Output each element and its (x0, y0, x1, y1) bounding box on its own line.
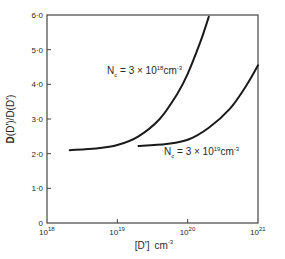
y-tick-label: 5·0 (31, 46, 43, 55)
y-tick-label: 0 (39, 219, 44, 228)
x-tick-label: 1020 (180, 226, 196, 237)
y-tick-label: 1·0 (31, 184, 43, 193)
y-tick-label: 6·0 (31, 11, 43, 20)
series-curve-0 (70, 17, 209, 151)
plot-frame (47, 15, 258, 223)
series-label-nc-3e18: Nc = 3 × 1018cm-3 (107, 65, 183, 78)
chart: 01·02·03·04·05·06·0 1018101910201021 D(D… (0, 0, 285, 259)
x-axis-ticks: 1018101910201021 (39, 219, 266, 237)
x-tick-label: 1019 (109, 226, 125, 237)
data-curves (70, 17, 258, 151)
x-tick-label: 1021 (250, 226, 266, 237)
x-axis-title: [D']cm-3 (135, 239, 174, 251)
y-tick-label: 3·0 (31, 115, 43, 124)
series-label-nc-3e19: Nc = 3 × 1019cm-3 (164, 146, 240, 159)
series-curve-1 (139, 65, 259, 146)
y-tick-label: 2·0 (31, 150, 43, 159)
y-axis-title: D(D')/D(D') (5, 95, 16, 144)
y-tick-label: 4·0 (31, 80, 43, 89)
x-tick-label: 1018 (39, 226, 55, 237)
y-axis-ticks: 01·02·03·04·05·06·0 (31, 11, 51, 228)
